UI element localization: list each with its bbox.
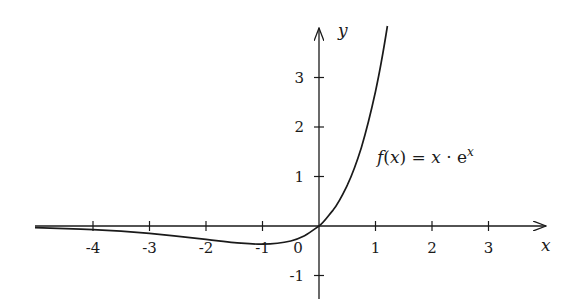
x-axis-label: x <box>541 235 551 255</box>
function-curve <box>35 26 387 244</box>
x-tick-label: -3 <box>142 239 157 257</box>
y-tick-label: -1 <box>289 267 304 285</box>
plot-canvas: -4 -3 -2 -1 0 1 2 3 3 2 1 -1 y x f(x) = … <box>0 0 575 308</box>
x-tick-label: -4 <box>86 239 101 257</box>
y-tick-label: 3 <box>294 69 304 87</box>
x-tick-label: 3 <box>484 239 494 257</box>
x-tick-label: -2 <box>199 239 214 257</box>
y-tick-label: 2 <box>294 118 304 136</box>
y-tick-label: 1 <box>294 168 304 186</box>
y-axis-label: y <box>337 20 348 40</box>
x-tick-label: 1 <box>371 239 381 257</box>
x-tick-label: -1 <box>255 239 270 257</box>
function-label: f(x) = x · ex <box>375 145 474 167</box>
x-tick-label: 2 <box>427 239 437 257</box>
origin-label: 0 <box>293 239 303 257</box>
